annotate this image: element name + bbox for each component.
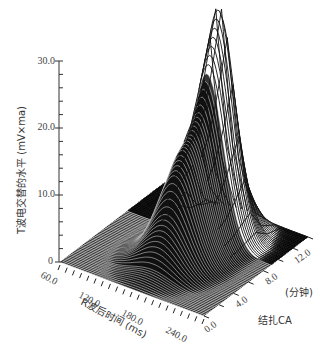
y-tick-0: 0.0 bbox=[202, 318, 219, 334]
x-tick-60: 60.0 bbox=[39, 269, 60, 287]
y-tick-4: 4.0 bbox=[233, 293, 250, 309]
surface-chart: 30.0 20.0 10.0 0 T波电交替的水平 (mV×ma) 60.0 1… bbox=[0, 0, 330, 359]
x-tick-240: 240.0 bbox=[164, 324, 189, 344]
z-tick-10: 10.0 bbox=[38, 188, 56, 199]
z-tick-0: 0 bbox=[48, 255, 53, 266]
z-tick-30: 30.0 bbox=[38, 55, 56, 66]
y-axis-unit: (分钟) bbox=[285, 286, 313, 298]
z-axis-title: T波电交替的水平 (mV×ma) bbox=[15, 106, 27, 235]
z-axis: 30.0 20.0 10.0 0 T波电交替的水平 (mV×ma) bbox=[15, 55, 63, 266]
z-tick-20: 20.0 bbox=[38, 121, 56, 132]
y-axis-title: 结扎CA bbox=[258, 314, 292, 326]
y-tick-8: 8.0 bbox=[263, 270, 280, 286]
